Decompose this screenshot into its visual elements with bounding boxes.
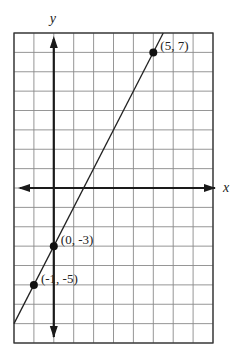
x-axis-label: x [222, 180, 230, 195]
data-point-label: (5, 7) [160, 38, 188, 53]
data-point-label: (0, -3) [61, 232, 94, 247]
data-point [149, 48, 157, 56]
x-axis-arrow-left [18, 184, 30, 192]
data-point [50, 242, 58, 250]
data-point [30, 281, 38, 289]
axes [18, 36, 216, 338]
y-axis-arrow-down [50, 326, 58, 338]
x-axis-arrow-right [204, 184, 216, 192]
data-point-label: (-1, -5) [41, 271, 78, 286]
y-axis-label: y [48, 11, 57, 26]
y-axis-arrow-up [50, 36, 58, 48]
series-line [14, 33, 163, 324]
series-layer [14, 33, 163, 324]
coordinate-plane: (5, 7)(0, -3)(-1, -5) x y [0, 0, 246, 363]
